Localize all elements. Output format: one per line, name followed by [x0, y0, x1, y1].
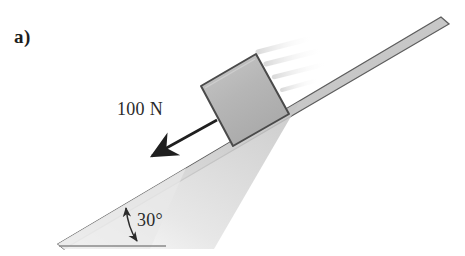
inclined-plane-diagram — [0, 0, 465, 256]
part-label: a) — [14, 26, 31, 48]
force-magnitude-label: 100 N — [117, 99, 163, 120]
incline-angle-label: 30° — [137, 210, 163, 231]
force-arrow — [152, 120, 217, 156]
physics-figure: a) 100 N 30° — [0, 0, 465, 256]
